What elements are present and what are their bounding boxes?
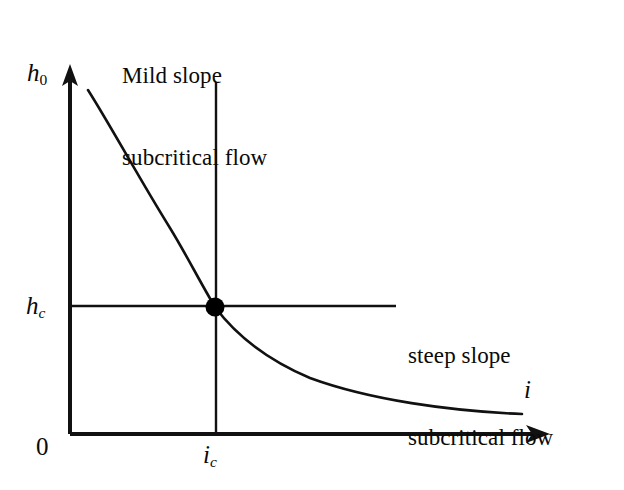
mild-slope-annotation-line2: subcritical flow xyxy=(122,144,267,171)
critical-depth-label-subscript: c xyxy=(39,304,46,321)
steep-slope-annotation-line1: steep slope xyxy=(408,342,553,369)
mild-slope-annotation: Mild slope subcritical flow xyxy=(122,8,267,225)
y-axis-label: h0 xyxy=(27,58,47,90)
mild-slope-annotation-line1: Mild slope xyxy=(122,62,267,89)
critical-depth-label-base: h xyxy=(26,292,39,319)
critical-slope-label-base: i xyxy=(203,441,210,468)
critical-slope-label-subscript: c xyxy=(210,453,217,470)
y-axis-label-base: h xyxy=(27,59,40,86)
critical-slope-label: ic xyxy=(203,440,217,472)
flow-regime-diagram: h0 hc 0 ic i Mild slope subcritical flow… xyxy=(0,0,624,490)
y-axis xyxy=(62,64,78,434)
steep-slope-annotation-line2: subcritical flow xyxy=(408,424,553,451)
critical-point-marker xyxy=(206,298,225,317)
origin-label: 0 xyxy=(36,432,49,462)
y-axis-label-subscript: 0 xyxy=(40,71,48,88)
critical-depth-label: hc xyxy=(26,291,45,323)
steep-slope-annotation: steep slope subcritical flow xyxy=(408,288,553,490)
